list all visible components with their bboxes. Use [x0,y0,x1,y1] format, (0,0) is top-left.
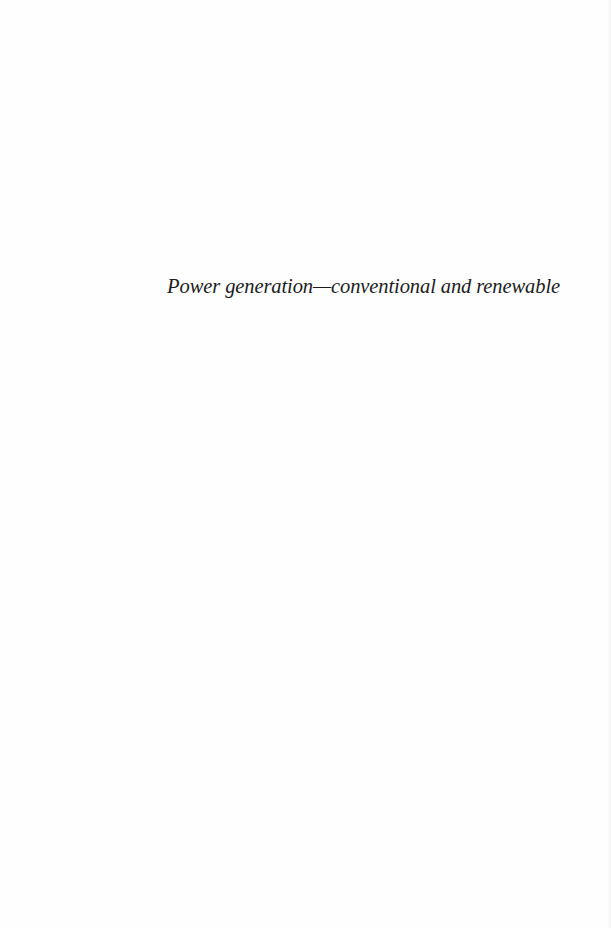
book-page: Power generation—conventional and renewa… [0,0,611,928]
half-title: Power generation—conventional and renewa… [167,274,560,298]
